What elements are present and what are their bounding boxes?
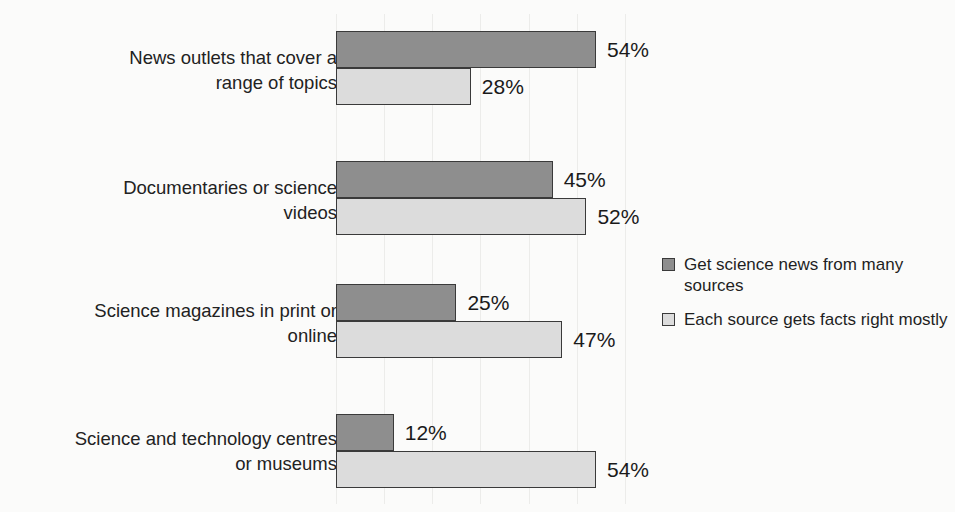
legend-label: Get science news from many sources — [684, 254, 950, 296]
category-label: Science magazines in print or online — [7, 298, 337, 348]
legend-swatch-facts — [662, 313, 675, 326]
bar-chart: News outlets that cover a range of topic… — [0, 0, 955, 512]
bar-value-label: 25% — [467, 291, 509, 315]
bar-value-label: 45% — [564, 168, 606, 192]
legend-item[interactable]: Get science news from many sources — [662, 254, 950, 296]
bar-value-label: 54% — [607, 458, 649, 482]
category-label: Science and technology centres or museum… — [7, 426, 337, 476]
chart-legend: Get science news from many sourcesEach s… — [662, 254, 950, 343]
bar-many[interactable] — [336, 31, 596, 68]
bar-many[interactable] — [336, 161, 553, 198]
bar-value-label: 47% — [573, 328, 615, 352]
bar-many[interactable] — [336, 414, 394, 451]
bar-value-label: 28% — [482, 75, 524, 99]
bar-facts[interactable] — [336, 321, 562, 358]
bar-value-label: 52% — [597, 205, 639, 229]
category-label: News outlets that cover a range of topic… — [7, 45, 337, 95]
legend-swatch-many — [662, 258, 675, 271]
bar-value-label: 12% — [405, 421, 447, 445]
bar-value-label: 54% — [607, 38, 649, 62]
bar-facts[interactable] — [336, 198, 586, 235]
category-label: Documentaries or science videos — [7, 175, 337, 225]
bar-many[interactable] — [336, 284, 456, 321]
legend-label: Each source gets facts right mostly — [684, 309, 948, 330]
bar-facts[interactable] — [336, 68, 471, 105]
bar-facts[interactable] — [336, 451, 596, 488]
legend-item[interactable]: Each source gets facts right mostly — [662, 309, 950, 330]
